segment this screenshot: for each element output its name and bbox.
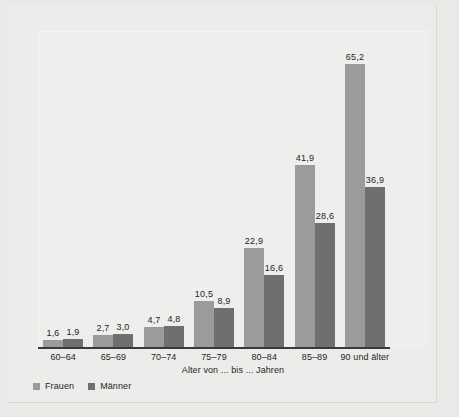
bar-männer-0	[63, 339, 83, 347]
x-tick-label-0: 60–64	[38, 352, 88, 362]
bar-frauen-0	[43, 340, 63, 347]
bar-value-label-männer-4: 16,6	[258, 263, 290, 273]
legend-label-maenner: Männer	[100, 381, 131, 391]
bar-männer-3	[214, 308, 234, 347]
x-tick-label-4: 80–84	[239, 352, 289, 362]
bar-value-label-männer-1: 3,0	[107, 322, 139, 332]
bar-value-label-frauen-5: 41,9	[289, 153, 321, 163]
bar-männer-2	[164, 326, 184, 347]
bar-frauen-5	[295, 165, 315, 347]
bar-männer-1	[113, 334, 133, 347]
bar-value-label-männer-2: 4,8	[158, 314, 190, 324]
bar-value-label-männer-6: 36,9	[359, 175, 391, 185]
bar-frauen-1	[93, 335, 113, 347]
legend-item-frauen[interactable]: Frauen	[33, 381, 74, 391]
legend-item-maenner[interactable]: Männer	[88, 381, 131, 391]
bar-value-label-frauen-4: 22,9	[238, 236, 270, 246]
x-tick-label-6: 90 und älter	[340, 352, 390, 362]
bar-frauen-3	[194, 301, 214, 347]
chart-legend: Frauen Männer	[33, 381, 131, 391]
bar-layer: 1,61,960–642,73,065–694,74,870–7410,58,9…	[0, 0, 459, 417]
maenner-swatch-icon	[88, 383, 95, 390]
legend-label-frauen: Frauen	[45, 381, 74, 391]
frauen-swatch-icon	[33, 383, 40, 390]
bar-value-label-männer-3: 8,9	[208, 296, 240, 306]
bar-männer-5	[315, 223, 335, 347]
x-tick-label-5: 85–89	[289, 352, 339, 362]
x-tick-label-2: 70–74	[139, 352, 189, 362]
bar-value-label-männer-0: 1,9	[57, 327, 89, 337]
x-tick-label-3: 75–79	[189, 352, 239, 362]
bar-männer-4	[264, 275, 284, 347]
x-tick-label-1: 65–69	[88, 352, 138, 362]
bar-value-label-frauen-6: 65,2	[339, 52, 371, 62]
bar-männer-6	[365, 187, 385, 347]
bar-frauen-2	[144, 327, 164, 347]
bar-value-label-männer-5: 28,6	[309, 211, 341, 221]
bar-frauen-6	[345, 64, 365, 347]
chart-figure: 1,61,960–642,73,065–694,74,870–7410,58,9…	[0, 0, 459, 417]
